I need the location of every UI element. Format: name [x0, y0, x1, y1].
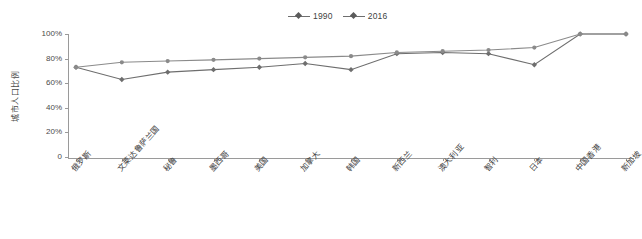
data-point[interactable]: [211, 58, 215, 62]
data-point[interactable]: [74, 65, 78, 69]
data-point[interactable]: [348, 67, 353, 72]
series-line-2016: [76, 34, 626, 67]
data-point[interactable]: [120, 60, 124, 64]
data-point[interactable]: [257, 57, 261, 61]
data-point[interactable]: [257, 65, 262, 70]
series-plot-layer: [0, 0, 642, 239]
urban-population-line-chart: 1990 2016 城市人口比例 020%40%60%80%100% 俄罗斯文莱…: [0, 0, 642, 239]
data-point[interactable]: [578, 32, 582, 36]
data-point[interactable]: [165, 69, 170, 74]
data-point[interactable]: [166, 59, 170, 63]
data-point[interactable]: [349, 54, 353, 58]
data-point[interactable]: [302, 61, 307, 66]
data-point[interactable]: [395, 50, 399, 54]
data-point[interactable]: [303, 55, 307, 59]
data-point[interactable]: [624, 32, 628, 36]
data-point[interactable]: [119, 77, 124, 82]
data-point[interactable]: [441, 49, 445, 53]
data-point[interactable]: [532, 45, 536, 49]
data-point[interactable]: [486, 48, 490, 52]
series-2016: [74, 32, 628, 69]
data-point[interactable]: [211, 67, 216, 72]
